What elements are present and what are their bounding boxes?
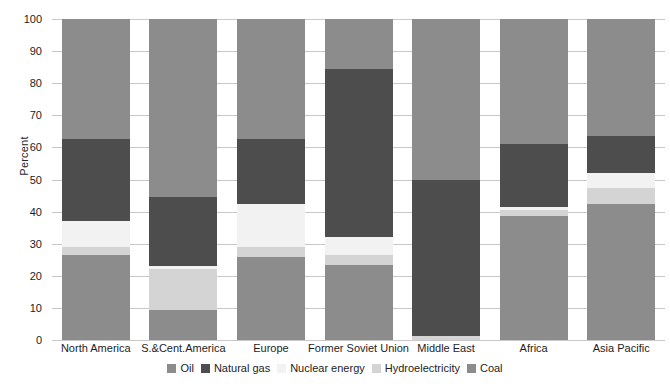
legend-item[interactable]: Nuclear energy <box>277 362 365 374</box>
bar-segment[interactable] <box>149 269 217 309</box>
bar-stack[interactable] <box>412 19 480 340</box>
bar-segment[interactable] <box>237 247 305 257</box>
legend-item[interactable]: Coal <box>467 362 503 374</box>
bar-segment[interactable] <box>325 255 393 265</box>
y-axis-tick-label: 40 <box>30 206 42 218</box>
y-axis-tick-label: 20 <box>30 270 42 282</box>
bar-segment[interactable] <box>412 336 480 340</box>
bar-segment[interactable] <box>149 197 217 266</box>
legend-item[interactable]: Natural gas <box>201 362 270 374</box>
bar-segment[interactable] <box>62 19 130 139</box>
legend-item[interactable]: Hydroelectricity <box>372 362 460 374</box>
bar-segment[interactable] <box>500 216 568 340</box>
bar-segment[interactable] <box>587 173 655 187</box>
bar-segment[interactable] <box>149 19 217 197</box>
bar-segment[interactable] <box>587 188 655 204</box>
legend-item[interactable]: Oil <box>167 362 193 374</box>
bar-segment[interactable] <box>62 221 130 247</box>
bar-stack[interactable] <box>149 19 217 340</box>
y-axis-tick-label: 90 <box>30 45 42 57</box>
bar-segment[interactable] <box>325 265 393 340</box>
x-axis-category-label: S.&Cent.America <box>141 342 225 354</box>
bar-segment[interactable] <box>237 19 305 139</box>
x-axis-category-label: Former Soviet Union <box>308 342 409 354</box>
legend-swatch-icon <box>201 364 210 373</box>
bar-stack[interactable] <box>500 19 568 340</box>
bar-stack[interactable] <box>325 19 393 340</box>
bar-stack[interactable] <box>237 19 305 340</box>
legend-label: Nuclear energy <box>290 362 365 374</box>
bar-segment[interactable] <box>587 204 655 340</box>
bar-segment[interactable] <box>325 19 393 69</box>
bar-segment[interactable] <box>325 237 393 255</box>
y-axis-tick-label: 0 <box>36 334 42 346</box>
bar-segment[interactable] <box>500 207 568 210</box>
legend-swatch-icon <box>167 364 176 373</box>
y-axis-tick-label: 60 <box>30 141 42 153</box>
bar-stack[interactable] <box>62 19 130 340</box>
x-axis-category-label: Middle East <box>417 342 474 354</box>
legend-label: Hydroelectricity <box>385 362 460 374</box>
bar-group <box>52 19 665 340</box>
bar-segment[interactable] <box>500 210 568 216</box>
legend-label: Natural gas <box>214 362 270 374</box>
legend-swatch-icon <box>467 364 476 373</box>
legend-label: Coal <box>480 362 503 374</box>
bar-segment[interactable] <box>237 139 305 203</box>
x-axis-category-label: Africa <box>520 342 548 354</box>
bar-segment[interactable] <box>149 266 217 269</box>
y-axis-tick-label: 10 <box>30 302 42 314</box>
bar-segment[interactable] <box>62 139 130 221</box>
bar-segment[interactable] <box>62 247 130 255</box>
x-axis-category-labels: North AmericaS.&Cent.AmericaEuropeFormer… <box>52 341 665 359</box>
stacked-bar-chart: Percent 0102030405060708090100 North Ame… <box>0 0 670 389</box>
bar-segment[interactable] <box>237 257 305 340</box>
bar-stack[interactable] <box>587 19 655 340</box>
x-axis-category-label: North America <box>61 342 131 354</box>
legend-swatch-icon <box>372 364 381 373</box>
bar-segment[interactable] <box>587 19 655 136</box>
y-axis-tick-label: 70 <box>30 109 42 121</box>
bar-segment[interactable] <box>500 19 568 144</box>
y-axis-tick-label: 30 <box>30 238 42 250</box>
bar-segment[interactable] <box>412 180 480 337</box>
bar-segment[interactable] <box>325 69 393 238</box>
bar-segment[interactable] <box>237 204 305 247</box>
chart-legend: OilNatural gasNuclear energyHydroelectri… <box>0 362 670 374</box>
y-axis-tick-label: 50 <box>30 174 42 186</box>
bar-segment[interactable] <box>587 136 655 173</box>
legend-label: Oil <box>180 362 193 374</box>
legend-swatch-icon <box>277 364 286 373</box>
bar-segment[interactable] <box>62 255 130 340</box>
y-axis-tick-label: 100 <box>24 13 42 25</box>
plot-area <box>52 19 665 340</box>
y-axis-tick-labels: 0102030405060708090100 <box>0 19 46 340</box>
bar-segment[interactable] <box>149 310 217 340</box>
y-axis-tick-label: 80 <box>30 77 42 89</box>
x-axis-category-label: Europe <box>253 342 288 354</box>
bar-segment[interactable] <box>412 19 480 180</box>
x-axis-category-label: Asia Pacific <box>593 342 650 354</box>
bar-segment[interactable] <box>500 144 568 207</box>
